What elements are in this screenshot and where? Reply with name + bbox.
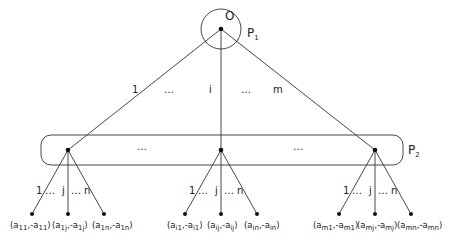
branch-label-i: i xyxy=(209,84,212,95)
svg-text:…: … xyxy=(224,185,234,196)
leaf-payoff: (a11,-a11) xyxy=(10,220,51,232)
leaf-payoff: (ai1,-ai1) xyxy=(167,220,203,232)
branch-label-1: 1 xyxy=(132,84,138,95)
svg-text:…: … xyxy=(71,185,81,196)
svg-text:j: j xyxy=(214,185,218,196)
p2-node-m xyxy=(373,148,378,153)
svg-text:…: … xyxy=(378,185,388,196)
root-label: O xyxy=(225,9,234,23)
p2-label: P2 xyxy=(408,143,420,159)
branch-label-m: m xyxy=(273,84,283,95)
leaf-payoff: (ain,-ain) xyxy=(244,220,280,232)
branch-dots-2: … xyxy=(241,84,251,95)
branch-dots-1: … xyxy=(164,84,174,95)
svg-text:1: 1 xyxy=(189,185,195,196)
leaf-payoff: (aij,-aij) xyxy=(207,220,238,232)
leaf-payoff: (a1j,-a1j) xyxy=(52,220,88,232)
root-node xyxy=(219,27,224,32)
svg-text:n: n xyxy=(84,185,90,196)
game-tree-diagram: O P1 1 … i … m P2 … … 1…j…n 1…j…n 1…j…n … xyxy=(0,0,462,246)
leaf-payoff: (amn,-amn) xyxy=(397,220,442,232)
svg-text:1: 1 xyxy=(343,185,349,196)
svg-text:j: j xyxy=(61,185,65,196)
leaf-payoff: (a1n,-a1n) xyxy=(92,220,133,232)
svg-text:…: … xyxy=(352,185,362,196)
branch-1 xyxy=(68,29,221,150)
p2-node-1 xyxy=(66,148,71,153)
svg-text:…: … xyxy=(45,185,55,196)
svg-text:j: j xyxy=(368,185,372,196)
p1-label: P1 xyxy=(247,26,259,42)
leaf-payoff: (am1,-am1) xyxy=(313,220,358,232)
p2-dots-right: … xyxy=(293,141,303,152)
svg-text:…: … xyxy=(198,185,208,196)
p2-node-i xyxy=(219,148,224,153)
svg-text:n: n xyxy=(391,185,397,196)
svg-text:n: n xyxy=(237,185,243,196)
p2-dots-left: … xyxy=(137,141,147,152)
leaf-payoff: (amj,-amj) xyxy=(357,220,397,232)
svg-text:1: 1 xyxy=(36,185,42,196)
